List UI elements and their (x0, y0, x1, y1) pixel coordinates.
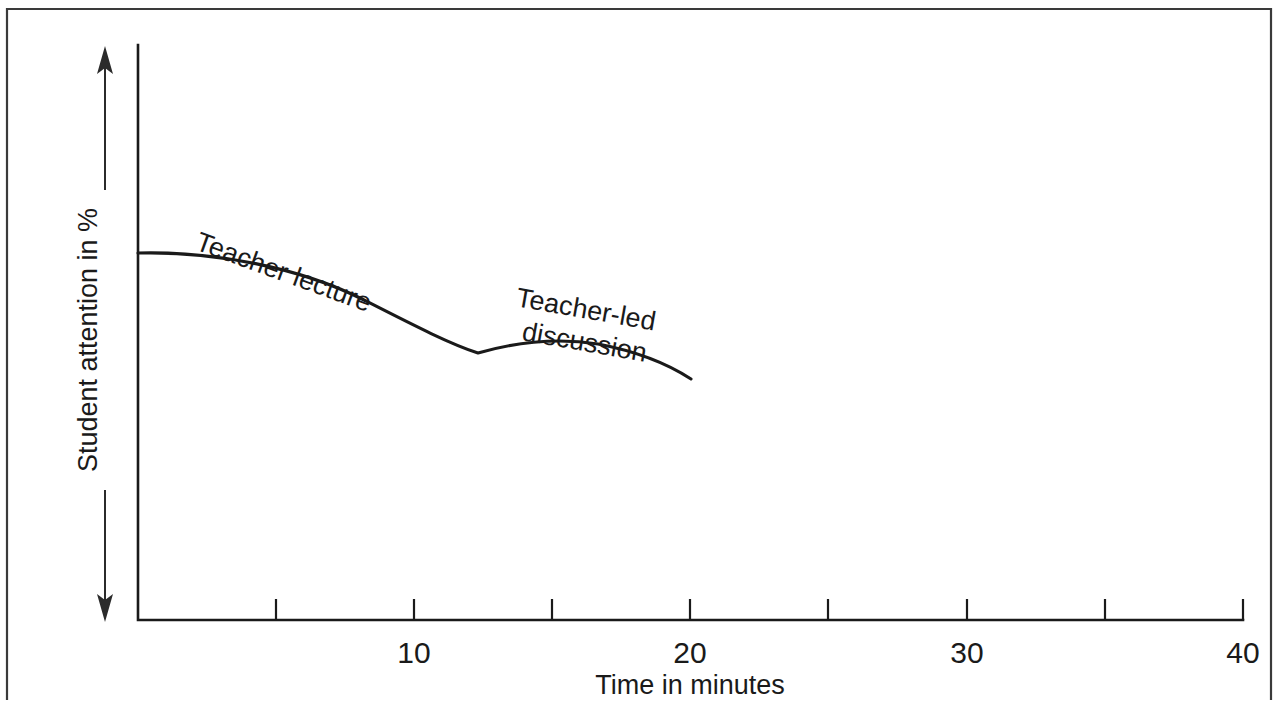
y-axis-title-group: Student attention in % (72, 190, 108, 490)
figure-canvas: Student attention in % 10 20 30 40 Time … (0, 0, 1278, 704)
annotation-teacher-led-discussion: Teacher-led discussion (514, 282, 658, 367)
x-tick-label-10: 10 (397, 636, 430, 669)
x-tick-label-30: 30 (950, 636, 983, 669)
x-axis-title: Time in minutes (595, 670, 785, 700)
annotation-teacher-lecture: Teacher lecture (192, 226, 376, 317)
y-axis-title: Student attention in % (73, 208, 103, 472)
x-tick-label-20: 20 (673, 636, 706, 669)
plot-axes (138, 45, 1243, 620)
attention-curve-chart: Student attention in % 10 20 30 40 Time … (0, 0, 1278, 704)
x-axis-ticks (276, 599, 1243, 620)
x-tick-label-40: 40 (1226, 636, 1259, 669)
